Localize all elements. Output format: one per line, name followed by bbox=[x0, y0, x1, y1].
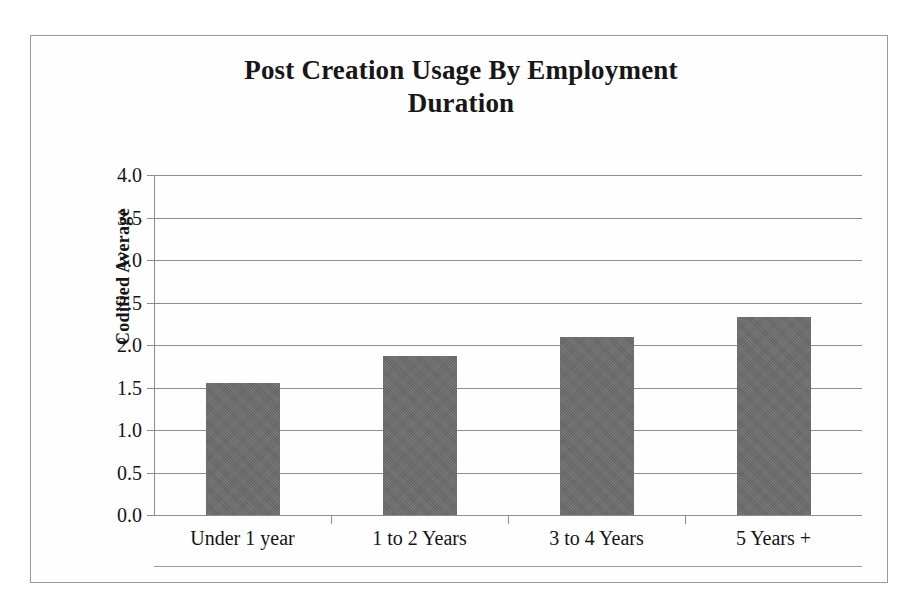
y-axis-tick-label: 3.0 bbox=[117, 249, 142, 272]
x-axis-category-label: Under 1 year bbox=[190, 527, 294, 550]
y-axis-tick bbox=[147, 388, 154, 389]
gridline bbox=[154, 303, 862, 304]
bar bbox=[560, 337, 634, 516]
bar bbox=[383, 356, 457, 515]
chart-title-line-2: Duration bbox=[91, 87, 831, 120]
y-axis-tick-label: 1.0 bbox=[117, 419, 142, 442]
y-axis-tick-label: 3.5 bbox=[117, 206, 142, 229]
x-axis-category-label: 5 Years + bbox=[736, 527, 811, 550]
x-axis-category-label: 1 to 2 Years bbox=[372, 527, 466, 550]
bar bbox=[206, 383, 280, 515]
y-axis-tick bbox=[147, 175, 154, 176]
y-axis-tick-label: 0.0 bbox=[117, 504, 142, 527]
y-axis-tick bbox=[147, 430, 154, 431]
y-axis-tick-label: 2.0 bbox=[117, 334, 142, 357]
y-axis-tick-label: 1.5 bbox=[117, 376, 142, 399]
plot-area: 4.03.53.02.52.01.51.00.50.0 Under 1 year… bbox=[154, 175, 862, 515]
bar bbox=[737, 317, 811, 515]
y-axis-tick-label: 0.5 bbox=[117, 461, 142, 484]
x-axis-separator-tick bbox=[508, 516, 509, 524]
x-axis-separator-tick bbox=[331, 516, 332, 524]
y-axis-tick bbox=[147, 473, 154, 474]
chart-title-line-1: Post Creation Usage By Employment bbox=[91, 54, 831, 87]
gridline bbox=[154, 218, 862, 219]
x-axis-baseline-rule bbox=[154, 566, 862, 567]
gridline bbox=[154, 260, 862, 261]
y-axis-tick bbox=[147, 303, 154, 304]
y-axis-tick bbox=[147, 515, 154, 516]
chart-figure-frame: Post Creation Usage By Employment Durati… bbox=[30, 35, 888, 583]
y-axis-tick-label: 4.0 bbox=[117, 164, 142, 187]
x-axis-separator-tick bbox=[685, 516, 686, 524]
y-axis-tick bbox=[147, 218, 154, 219]
x-axis-category-label: 3 to 4 Years bbox=[549, 527, 643, 550]
chart-title: Post Creation Usage By Employment Durati… bbox=[91, 54, 831, 120]
y-axis-tick bbox=[147, 260, 154, 261]
gridline bbox=[154, 175, 862, 176]
y-axis-tick-label: 2.5 bbox=[117, 291, 142, 314]
y-axis-tick bbox=[147, 345, 154, 346]
